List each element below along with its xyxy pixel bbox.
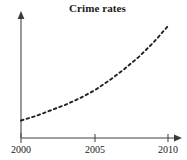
x-tick-label-2010: 2010 xyxy=(149,144,187,155)
crime-rates-chart-figure: Crime rates 2000 2005 2010 xyxy=(0,0,187,160)
data-series-line-crime-rates xyxy=(21,26,168,121)
x-tick-label-2000: 2000 xyxy=(2,144,40,155)
y-axis-arrowhead xyxy=(18,11,25,19)
x-axis-arrowhead xyxy=(174,135,182,142)
chart-plot-area xyxy=(0,0,187,160)
x-tick-label-2005: 2005 xyxy=(76,144,114,155)
